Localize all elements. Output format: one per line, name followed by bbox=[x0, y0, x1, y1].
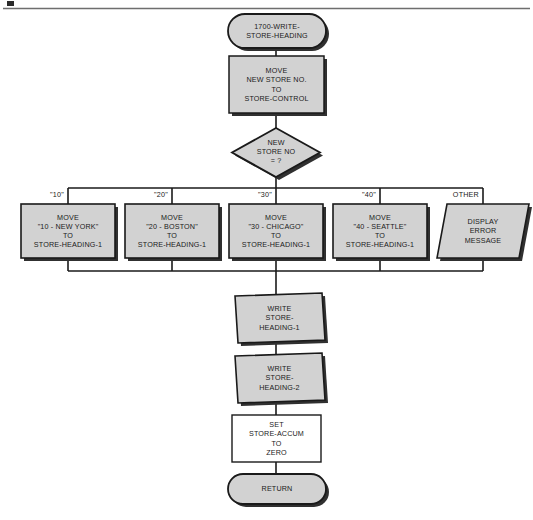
decision-shape bbox=[232, 128, 323, 180]
write-heading-2-shape bbox=[235, 353, 328, 406]
branch-other-edge-label: OTHER bbox=[435, 190, 479, 199]
move-store-control-shape bbox=[229, 56, 327, 116]
branch-10-shape bbox=[21, 204, 118, 261]
start-terminal-shape bbox=[228, 14, 329, 51]
branch-40-shape bbox=[333, 204, 430, 261]
flowchart-canvas: 1700-WRITE- STORE-HEADING MOVE NEW STORE… bbox=[0, 0, 533, 520]
write-heading-1-shape bbox=[235, 293, 328, 346]
branch-20-edge-label: "20" bbox=[128, 190, 168, 199]
set-store-accum-shape bbox=[232, 415, 321, 462]
branch-other-shape bbox=[437, 204, 532, 261]
branch-10-edge-label: "10" bbox=[24, 190, 64, 199]
branch-40-edge-label: "40" bbox=[336, 190, 376, 199]
return-terminal-shape bbox=[228, 474, 329, 507]
branch-20-shape bbox=[125, 204, 222, 261]
flowchart-graphics bbox=[0, 0, 533, 520]
branch-30-shape bbox=[229, 204, 326, 261]
branch-30-edge-label: "30" bbox=[232, 190, 272, 199]
